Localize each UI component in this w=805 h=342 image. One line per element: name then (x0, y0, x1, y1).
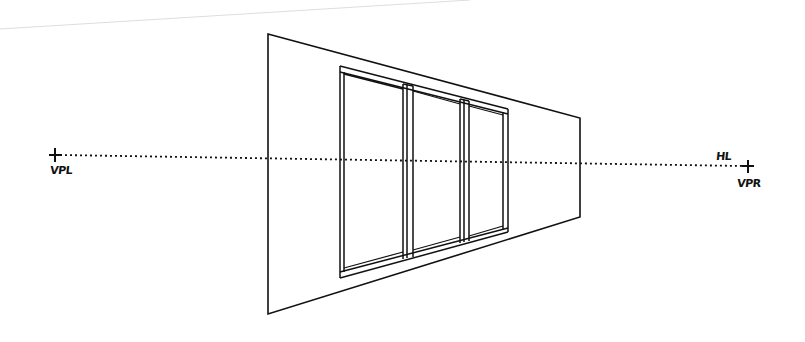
faint-guide-line (0, 0, 470, 29)
window-mullion-1 (403, 84, 413, 259)
hl-label: HL (715, 150, 732, 163)
vanishing-point-left-marker (49, 148, 62, 162)
window-mullion-2 (460, 99, 469, 243)
window-pane-edges (344, 91, 503, 268)
window-frame (340, 66, 508, 278)
perspective-drawing (0, 0, 805, 342)
vanishing-point-right-marker (742, 160, 754, 173)
horizon-line (60, 155, 742, 166)
vpr-label: VPR (736, 177, 761, 190)
vpl-label: VPL (49, 164, 72, 177)
wall-plane (268, 34, 580, 314)
